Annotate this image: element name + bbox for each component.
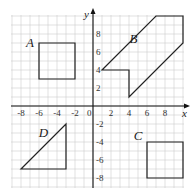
- x-tick-label: 6: [145, 108, 150, 118]
- x-tick-label: 2: [109, 108, 114, 118]
- y-tick-label: 4: [96, 65, 101, 75]
- x-tick-label: -4: [53, 108, 61, 118]
- y-tick-label: -2: [96, 119, 104, 129]
- y-tick-label: 2: [96, 83, 101, 93]
- x-tick-label: -8: [17, 108, 25, 118]
- y-tick-label: -4: [96, 137, 104, 147]
- y-tick-label: 8: [96, 29, 101, 39]
- y-tick-label: -8: [96, 173, 104, 183]
- shape-label-d: D: [38, 125, 49, 140]
- x-tick-label: 4: [127, 108, 132, 118]
- shape-label-b: B: [130, 31, 138, 46]
- y-tick-label: 6: [96, 47, 101, 57]
- y-tick-label: -6: [96, 155, 104, 165]
- shape-label-a: A: [25, 35, 34, 50]
- coordinate-diagram: -8-6-4-224688642-2-4-6-8 ABCD x y 0: [0, 0, 195, 193]
- x-tick-label: 8: [163, 108, 168, 118]
- x-tick-label: -6: [35, 108, 43, 118]
- x-axis-label: x: [181, 107, 187, 119]
- shape-b: [102, 16, 183, 97]
- y-axis-label: y: [83, 8, 89, 20]
- shape-label-c: C: [134, 128, 143, 143]
- origin-label: 0: [87, 108, 92, 118]
- y-axis-arrow-icon: [91, 8, 96, 14]
- x-tick-label: -2: [71, 108, 79, 118]
